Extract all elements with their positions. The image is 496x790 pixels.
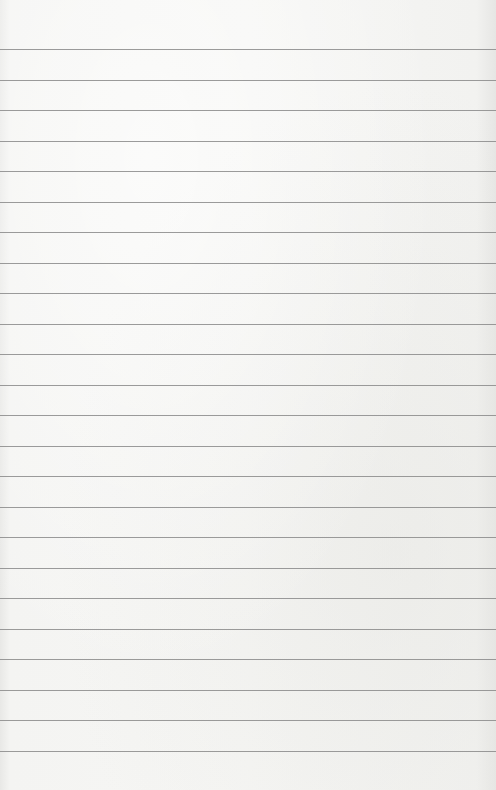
ruled-line [0,141,496,142]
ruled-line [0,385,496,386]
ruled-line [0,446,496,447]
ruled-line [0,232,496,233]
ruled-line [0,751,496,752]
ruled-line [0,202,496,203]
ruled-line [0,354,496,355]
ruled-line [0,659,496,660]
ruled-line [0,598,496,599]
ruled-line [0,171,496,172]
ruled-line [0,49,496,50]
ruled-line [0,476,496,477]
lined-paper-sheet [0,0,496,790]
ruled-line [0,537,496,538]
ruled-line [0,110,496,111]
ruled-line [0,293,496,294]
ruled-line [0,324,496,325]
ruled-line [0,415,496,416]
ruled-line [0,263,496,264]
ruled-line [0,507,496,508]
ruled-line [0,690,496,691]
ruled-line [0,629,496,630]
ruled-line [0,568,496,569]
ruled-line [0,720,496,721]
ruled-line [0,80,496,81]
